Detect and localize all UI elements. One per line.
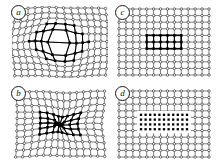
node-open [125,28,128,31]
node-open [201,96,204,99]
node-open [92,13,95,16]
node-open [132,143,135,146]
panel-a-mesh [12,6,108,78]
node-filled [76,123,79,126]
node-open [40,17,43,20]
node-filled [186,114,188,116]
node-open [17,34,20,37]
node-open [91,7,94,10]
node-open [81,140,84,143]
node-filled [159,47,162,50]
node-open [28,155,31,158]
node-open [145,14,148,17]
node-filled [77,117,80,120]
node-open [166,90,169,93]
node-open [152,74,155,77]
node-open [80,25,83,28]
node-filled [140,118,142,120]
node-open [118,67,121,70]
node-open [159,21,162,24]
node-filled [145,41,148,44]
node-open [187,34,190,37]
node-open [17,48,20,51]
node-open [25,26,28,29]
node-open [14,156,17,159]
node-filled [58,124,61,127]
node-open [132,123,135,126]
node-open [152,67,155,70]
node-open [118,149,121,152]
node-open [24,55,27,58]
node-open [45,105,48,108]
node-open [159,103,162,106]
node-open [33,62,36,64]
node-open [71,70,74,73]
node-filled [186,128,188,130]
node-open [187,143,190,146]
node-open [106,61,108,64]
node-filled [173,34,176,37]
node-open [13,68,16,71]
node-open [180,96,183,99]
node-open [12,55,14,58]
node-open [187,96,190,99]
node-filled [173,47,176,50]
node-open [118,143,121,146]
node-open [63,76,66,78]
node-filled [163,118,165,120]
node-open [132,21,135,24]
node-filled [144,118,146,120]
node-open [152,21,155,24]
node-open [13,74,16,77]
node-open [92,122,95,125]
node-open [159,136,162,139]
node-open [145,136,148,139]
node-open [166,61,169,64]
node-open [41,6,44,9]
node-open [22,41,25,44]
node-open [41,12,44,15]
node-open [99,19,102,22]
node-open [118,116,121,119]
node-open [173,96,176,99]
node-open [72,65,75,68]
node-open [38,140,41,143]
node-filled [159,34,162,37]
node-open [173,103,176,106]
node-open [95,110,98,113]
node-filled [54,22,57,25]
node-open [132,110,135,113]
node-open [77,7,80,10]
node-open [30,148,33,151]
node-open [96,103,99,106]
node-filled [154,123,156,125]
node-open [132,116,135,119]
node-open [173,21,176,24]
node-open [79,64,82,66]
node-open [78,70,81,73]
node-open [194,156,197,159]
node-open [194,136,197,139]
node-filled [177,123,179,125]
node-open [201,129,204,132]
node-open [166,8,169,11]
node-open [93,61,96,64]
node-filled [144,128,146,130]
panel-d-mesh [116,88,212,160]
node-open [173,74,176,77]
node-open [12,48,13,51]
node-open [103,155,106,158]
node-open [63,12,66,15]
node-filled [47,122,50,125]
node-open [100,40,103,43]
node-open [173,67,176,70]
node-filled [75,42,78,45]
node-open [139,21,142,24]
node-open [93,19,96,22]
node-open [106,40,108,43]
node-filled [47,41,50,44]
node-open [20,20,23,23]
node-open [37,147,40,150]
node-open [180,61,183,64]
node-filled [73,24,76,27]
